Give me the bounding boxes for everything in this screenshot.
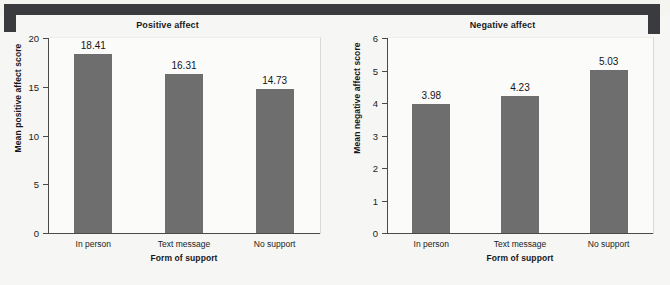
chart-negative-affect: Negative affect Mean negative affect sco… <box>335 15 670 285</box>
y-tick-label: 0 <box>373 228 378 239</box>
x-tick-label: No support <box>254 239 296 249</box>
y-tick-label: 2 <box>373 163 378 174</box>
y-tick-label: 6 <box>373 33 378 44</box>
y-tick-label: 0 <box>34 228 39 239</box>
x-axis-title: Form of support <box>48 253 320 263</box>
bars-layer: 18.41In person16.31Text message14.73No s… <box>48 38 320 234</box>
figure-row: Positive affect Mean positive affect sco… <box>0 15 670 285</box>
bar-value-label: 4.23 <box>510 82 529 93</box>
bars-layer: 3.98In person4.23Text message5.03No supp… <box>387 38 653 234</box>
bar-value-label: 16.31 <box>171 60 196 71</box>
chart-title: Negative affect <box>335 20 670 30</box>
bar: 5.03 <box>590 70 628 233</box>
bar-value-label: 14.73 <box>262 75 287 86</box>
chart-positive-affect: Positive affect Mean positive affect sco… <box>0 15 335 285</box>
x-tick-label: Text message <box>494 239 546 249</box>
bar-value-label: 3.98 <box>422 90 441 101</box>
y-tick-label: 3 <box>373 130 378 141</box>
y-tick-mark <box>382 136 387 137</box>
bar: 14.73 <box>256 89 294 233</box>
bar-value-label: 5.03 <box>599 56 618 67</box>
y-tick-label: 20 <box>28 33 39 44</box>
y-tick-mark <box>43 136 48 137</box>
y-tick-label: 5 <box>34 179 39 190</box>
y-tick-mark <box>382 38 387 39</box>
y-tick-mark <box>43 38 48 39</box>
scanned-figure-page: Positive affect Mean positive affect sco… <box>0 0 670 285</box>
y-tick-label: 4 <box>373 98 378 109</box>
y-tick-mark <box>382 71 387 72</box>
chart-title: Positive affect <box>0 20 335 30</box>
y-tick-label: 10 <box>28 130 39 141</box>
x-tick-label: In person <box>76 239 111 249</box>
x-tick-label: In person <box>414 239 449 249</box>
y-tick-label: 1 <box>373 195 378 206</box>
y-tick-mark <box>382 201 387 202</box>
y-tick-mark <box>382 168 387 169</box>
bar: 18.41 <box>74 54 112 233</box>
bar-value-label: 18.41 <box>81 40 106 51</box>
y-tick-label: 15 <box>28 81 39 92</box>
scan-edge-top <box>8 4 656 15</box>
y-axis-title: Mean negative affect score <box>352 18 362 178</box>
bar: 3.98 <box>412 104 450 233</box>
plot-area: 3.98In person4.23Text message5.03No supp… <box>387 37 654 234</box>
bar: 16.31 <box>165 74 203 233</box>
y-axis-title: Mean positive affect score <box>13 18 23 178</box>
plot-area: 18.41In person16.31Text message14.73No s… <box>48 37 321 234</box>
y-tick-mark <box>43 184 48 185</box>
y-tick-mark <box>43 233 48 234</box>
x-tick-label: Text message <box>158 239 210 249</box>
y-tick-mark <box>43 87 48 88</box>
y-tick-label: 5 <box>373 65 378 76</box>
x-axis-title: Form of support <box>387 253 653 263</box>
bar: 4.23 <box>501 96 539 233</box>
y-tick-mark <box>382 233 387 234</box>
x-tick-label: No support <box>588 239 630 249</box>
y-tick-mark <box>382 103 387 104</box>
